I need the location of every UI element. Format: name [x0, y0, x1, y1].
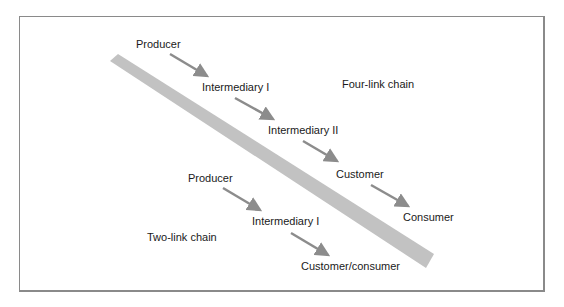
arrow-icon: [303, 141, 337, 161]
arrow-icon: [291, 233, 328, 255]
four-link-node-intermediary-1: Intermediary I: [202, 82, 269, 93]
four-link-node-producer: Producer: [136, 39, 181, 50]
arrow-icon: [170, 54, 207, 76]
four-link-node-customer: Customer: [336, 169, 384, 180]
arrow-icon: [223, 188, 260, 210]
two-link-chain-title: Two-link chain: [147, 232, 217, 243]
arrow-icon: [371, 185, 408, 206]
two-link-node-producer: Producer: [188, 173, 233, 184]
four-link-node-consumer: Consumer: [403, 212, 454, 223]
four-link-chain-title: Four-link chain: [342, 79, 414, 90]
four-link-node-intermediary-2: Intermediary II: [268, 125, 338, 136]
two-link-node-customer-consumer: Customer/consumer: [301, 261, 400, 272]
two-link-node-intermediary-1: Intermediary I: [252, 216, 319, 227]
diagram-canvas: [0, 0, 564, 307]
arrow-icon: [235, 98, 273, 119]
